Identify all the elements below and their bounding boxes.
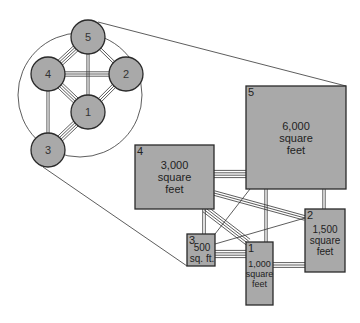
- room-link-4-5: [214, 170, 246, 177]
- room-block-1: 11,000squarefeet: [246, 242, 274, 305]
- room-area-text: square: [279, 132, 313, 144]
- room-area-text: 1,000: [248, 259, 271, 269]
- room-area-text: 6,000: [282, 120, 310, 132]
- room-block-3: 3500sq. ft.: [187, 234, 215, 266]
- room-number: 2: [307, 209, 313, 221]
- room-area-text: square: [310, 235, 341, 246]
- room-area-text: sq. ft.: [190, 253, 214, 264]
- diagram-canvas: 54213 56,000squarefeet43,000squarefeet21…: [0, 0, 360, 323]
- room-number: 5: [248, 86, 254, 98]
- room-block-5: 56,000squarefeet: [246, 86, 346, 189]
- room-area-text: 500: [194, 242, 211, 253]
- bubble-diagram: 54213: [18, 20, 143, 167]
- room-link-5-1: [265, 189, 267, 242]
- bubble-label: 4: [45, 68, 51, 80]
- room-area-text: feet: [287, 144, 305, 156]
- room-number: 4: [137, 145, 143, 157]
- adjacency-diagram: 54213 56,000squarefeet43,000squarefeet21…: [0, 0, 360, 323]
- room-link-3-1: [215, 250, 246, 257]
- room-number: 1: [248, 242, 254, 254]
- bubble-label: 3: [45, 144, 51, 156]
- bubble-label: 2: [123, 68, 129, 80]
- bubble-node-1: 1: [71, 95, 105, 129]
- bubble-node-4: 4: [31, 57, 65, 91]
- room-area-text: feet: [252, 279, 268, 289]
- block-diagram: 56,000squarefeet43,000squarefeet21,500sq…: [135, 86, 346, 305]
- bubble-node-2: 2: [109, 57, 143, 91]
- room-area-text: 1,500: [312, 224, 337, 235]
- room-area-text: feet: [317, 246, 334, 257]
- bubble-node-5: 5: [71, 20, 105, 54]
- room-area-text: square: [158, 171, 192, 183]
- bubble-label: 1: [85, 106, 91, 118]
- room-block-2: 21,500squarefeet: [305, 209, 345, 272]
- room-link-4-2: [213, 191, 305, 220]
- room-area-text: feet: [165, 183, 183, 195]
- room-block-4: 43,000squarefeet: [135, 145, 214, 209]
- room-area-text: square: [246, 269, 274, 279]
- room-area-text: 3,000: [161, 159, 189, 171]
- room-link-1-2: [273, 263, 305, 268]
- bubble-node-3: 3: [31, 133, 65, 167]
- bubble-label: 5: [85, 31, 91, 43]
- room-link-5-2: [323, 189, 325, 209]
